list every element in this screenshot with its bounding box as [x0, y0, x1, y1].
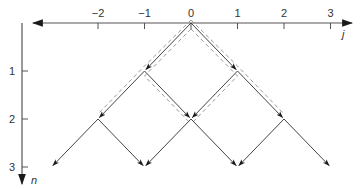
n-tick-label: 2 — [9, 113, 15, 125]
dashed-path — [191, 20, 284, 114]
lattice-edge-arrow — [191, 119, 236, 166]
lattice-edge-arrow — [146, 119, 191, 166]
j-tick-label: 2 — [281, 7, 287, 19]
lattice-edge-arrow — [98, 119, 143, 166]
dashed-path — [191, 29, 238, 124]
lattice-edge-arrow — [145, 71, 190, 118]
j-tick-label: 3 — [327, 7, 333, 19]
lattice-edge-arrow — [191, 23, 236, 70]
lattice-edge-arrow — [192, 71, 237, 118]
n-tick-label: 3 — [9, 161, 15, 173]
j-tick-label: 0 — [188, 7, 194, 19]
dashed-path — [98, 20, 191, 114]
lattice-diagram: −2−10123 123 j n — [0, 0, 362, 189]
j-axis-ticks: −2−10123 — [92, 7, 334, 29]
j-tick-label: −2 — [92, 7, 105, 19]
n-axis-ticks: 123 — [9, 65, 28, 173]
lattice-edge-arrow — [284, 119, 329, 166]
lattice-edges — [53, 23, 329, 166]
lattice-edge-arrow — [99, 71, 144, 118]
lattice-edge-arrow — [238, 71, 283, 118]
n-axis-label: n — [31, 174, 37, 186]
lattice-edge-arrow — [146, 23, 191, 70]
dashed-path — [145, 29, 192, 124]
j-axis-label: j — [340, 28, 345, 40]
lattice-edge-arrow — [53, 119, 98, 166]
dashed-paths — [98, 20, 284, 124]
j-tick-label: 1 — [234, 7, 240, 19]
lattice-edge-arrow — [239, 119, 284, 166]
n-tick-label: 1 — [9, 65, 15, 77]
j-tick-label: −1 — [138, 7, 151, 19]
